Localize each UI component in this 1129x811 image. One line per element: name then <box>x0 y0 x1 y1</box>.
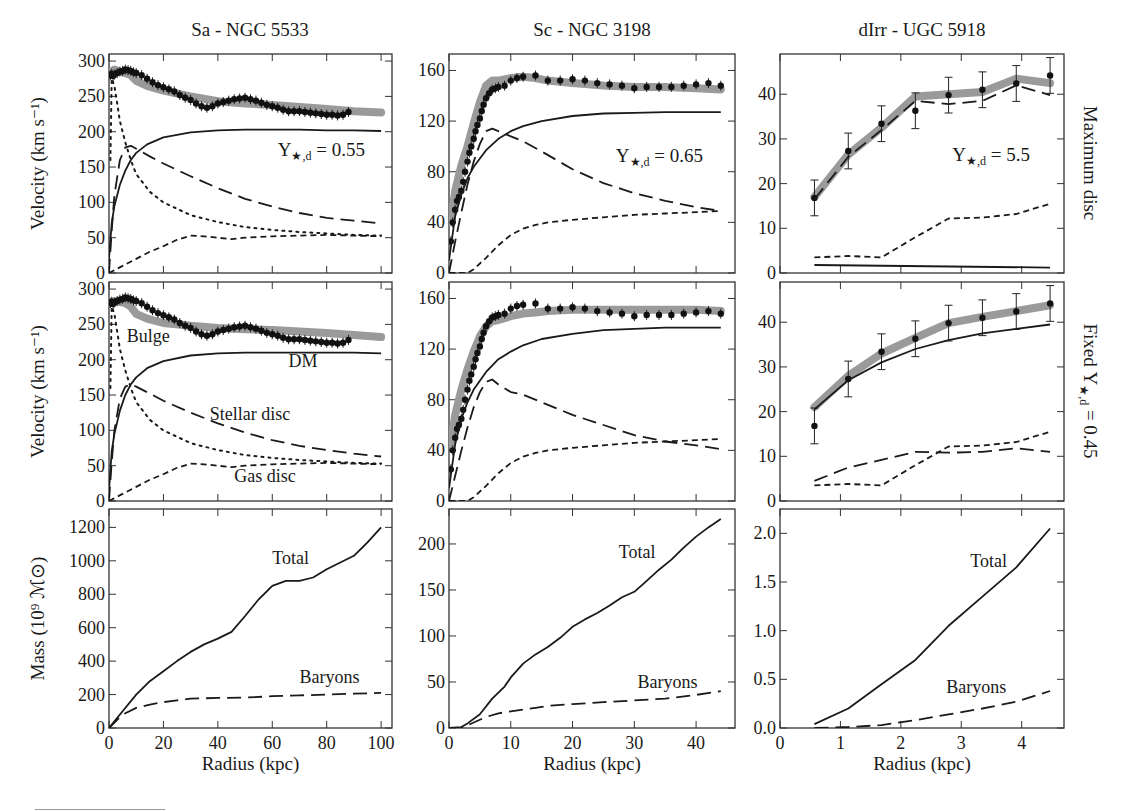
y-tick-label: 2.0 <box>754 523 777 543</box>
series-dm <box>449 112 721 260</box>
y-tick-label: 10 <box>758 218 776 238</box>
series-stellar-disc <box>814 85 1050 199</box>
x-axis-label: Radius (kpc) <box>873 753 971 775</box>
y-tick-label: 150 <box>78 385 105 405</box>
ml-ratio-annotation: Υ★,d = 5.5 <box>952 144 1030 168</box>
y-tick-label: 150 <box>78 157 105 177</box>
series-observed <box>810 58 1054 216</box>
curve-label: Total <box>619 542 656 562</box>
column-title-sc: Sc - NGC 3198 <box>533 19 651 40</box>
x-tick-label: 100 <box>368 733 395 753</box>
x-tick-label: 20 <box>564 733 582 753</box>
series-observed <box>107 0 384 348</box>
y-tick-label: 160 <box>418 60 445 80</box>
y-tick-label: 200 <box>418 534 445 554</box>
figure: Sa - NGC 5533 Sc - NGC 3198 dIrr - UGC 5… <box>0 0 1129 811</box>
x-tick-label: 0 <box>776 733 785 753</box>
x-axis-label: Radius (kpc) <box>543 753 641 775</box>
y-tick-label: 40 <box>427 440 445 460</box>
y-tick-label: 30 <box>758 129 776 149</box>
y-tick-label: 0 <box>767 263 776 283</box>
row-label-fixed-sub: ★,d <box>1077 385 1091 405</box>
x-tick-label: 20 <box>154 733 172 753</box>
y-tick-label: 800 <box>78 584 105 604</box>
series-gas-disc <box>109 235 381 273</box>
curve-label: Total <box>272 548 309 568</box>
y-tick-label: 0.5 <box>754 669 777 689</box>
y-tick-label: 150 <box>418 580 445 600</box>
y-tick-label: 0.0 <box>754 718 777 738</box>
y-tick-label: 40 <box>758 312 776 332</box>
curve-label: Baryons <box>946 677 1006 697</box>
series-total <box>109 527 381 728</box>
y-tick-label: 200 <box>78 685 105 705</box>
footnote-rule <box>35 809 165 810</box>
y-tick-label: 1.0 <box>754 621 777 641</box>
series-baryons <box>109 693 381 728</box>
row-label-fixed-main: Fixed Υ <box>1080 323 1101 385</box>
y-tick-label: 400 <box>78 651 105 671</box>
y-tick-label: 1200 <box>69 517 105 537</box>
series-total-model <box>110 70 381 113</box>
plot-frame <box>780 282 1064 501</box>
curve-label: Bulge <box>127 326 170 346</box>
y-tick-label: 0 <box>96 491 105 511</box>
series-stellar-disc <box>449 380 721 502</box>
series-gas-disc <box>449 439 721 501</box>
y-tick-label: 0 <box>436 718 445 738</box>
column-title-dirr: dIrr - UGC 5918 <box>858 19 985 40</box>
curve-label: Baryons <box>637 672 697 692</box>
y-axis-label: Mass (10⁹ ℳ⊙) <box>27 557 49 681</box>
y-tick-label: 300 <box>78 279 105 299</box>
y-tick-label: 20 <box>758 174 776 194</box>
curve-label: Baryons <box>299 667 359 687</box>
series-stellar-disc <box>814 448 1050 481</box>
series-total-model <box>814 79 1050 197</box>
panel-sa-maxdisc: 050100150200250300Velocity (km s⁻¹)Υ★,d … <box>27 0 392 283</box>
y-tick-label: 0 <box>436 491 445 511</box>
ml-ratio-annotation: Υ★,d = 0.55 <box>278 139 365 163</box>
x-tick-label: 1 <box>836 733 845 753</box>
panel-sc-maxdisc: 04080120160Υ★,d = 0.65 <box>418 54 735 283</box>
row-label-fixed: Fixed Υ★,d = 0.45 <box>1077 323 1101 458</box>
y-axis-label: Velocity (km s⁻¹) <box>27 325 49 458</box>
y-tick-label: 40 <box>758 84 776 104</box>
x-tick-label: 30 <box>625 733 643 753</box>
y-tick-label: 200 <box>78 350 105 370</box>
row-labels: Maximum disc Fixed Υ★,d = 0.45 <box>1077 106 1101 459</box>
y-tick-label: 1.5 <box>754 572 777 592</box>
ml-ratio-annotation: Υ★,d = 0.65 <box>616 145 703 169</box>
panel-dirr-maxdisc: 010203040Υ★,d = 5.5 <box>758 54 1064 283</box>
y-tick-label: 50 <box>87 456 105 476</box>
curve-label: Gas disc <box>234 466 296 486</box>
panel-sc-mass: 010203040050100150200Radius (kpc)TotalBa… <box>418 509 735 775</box>
series-gas-disc <box>814 204 1050 258</box>
series-observed <box>810 286 1054 444</box>
y-tick-label: 160 <box>418 288 445 308</box>
x-tick-label: 40 <box>209 733 227 753</box>
series-observed <box>448 299 724 475</box>
x-axis-label: Radius (kpc) <box>202 753 300 775</box>
panel-sa-fixed: 050100150200250300Velocity (km s⁻¹)Bulge… <box>27 0 392 511</box>
panels: 050100150200250300Velocity (km s⁻¹)Υ★,d … <box>27 0 1064 775</box>
series-baryons <box>449 691 721 728</box>
y-tick-label: 250 <box>78 314 105 334</box>
y-tick-label: 100 <box>78 192 105 212</box>
y-tick-label: 100 <box>78 420 105 440</box>
series-stellar-disc <box>109 146 381 273</box>
y-tick-label: 200 <box>78 122 105 142</box>
y-tick-label: 80 <box>427 390 445 410</box>
y-tick-label: 80 <box>427 162 445 182</box>
panel-sc-fixed: 04080120160 <box>418 282 735 511</box>
y-tick-label: 50 <box>87 228 105 248</box>
panel-dirr-mass: 012340.00.51.01.52.0Radius (kpc)TotalBar… <box>754 509 1065 775</box>
y-tick-label: 0 <box>96 718 105 738</box>
x-tick-label: 0 <box>445 733 454 753</box>
curve-label: Stellar disc <box>210 404 290 424</box>
x-tick-label: 80 <box>318 733 336 753</box>
plot-frame <box>449 509 735 728</box>
x-tick-label: 2 <box>896 733 905 753</box>
y-tick-label: 1000 <box>69 551 105 571</box>
series-dm <box>814 265 1050 268</box>
y-tick-label: 10 <box>758 446 776 466</box>
